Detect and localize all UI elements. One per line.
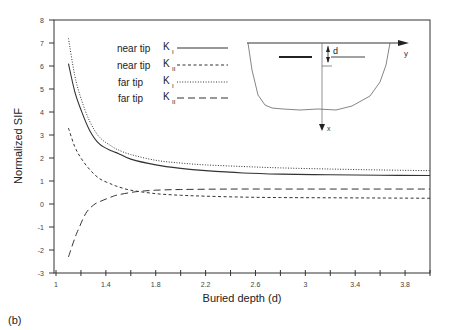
y-tick-label: 5	[40, 86, 44, 93]
y-axis-label: Normalized SIF	[12, 108, 24, 184]
inset-x-label: x	[327, 125, 331, 132]
x-tick-label: 3.4	[350, 281, 360, 288]
y-tick-label: 8	[40, 17, 44, 24]
y-tick-label: 7	[40, 40, 44, 47]
legend-label-3: far tip	[118, 93, 143, 104]
plot-axes: -3-2-101234567811.41.82.22.633.43.8	[38, 17, 430, 289]
series-line-3	[68, 189, 430, 257]
x-tick-label: 1.8	[151, 281, 161, 288]
plot-series	[68, 38, 430, 257]
y-tick-label: 4	[40, 109, 44, 116]
series-line-1	[68, 128, 430, 198]
y-tick-label: -2	[38, 247, 44, 254]
inset-y-label: y	[404, 49, 408, 58]
x-axis-label: Buried depth (d)	[203, 292, 282, 304]
chart: -3-2-101234567811.41.82.22.633.43.8 near…	[0, 0, 450, 330]
x-tick-label: 3	[303, 281, 307, 288]
x-tick-label: 2.6	[251, 281, 261, 288]
y-tick-label: 3	[40, 132, 44, 139]
plot-frame	[54, 20, 430, 273]
svg-text:II: II	[172, 99, 176, 105]
y-tick-label: -3	[38, 270, 44, 277]
x-tick-label: 2.2	[201, 281, 211, 288]
svg-text:I: I	[172, 49, 174, 55]
x-tick-label: 1	[54, 281, 58, 288]
svg-text:II: II	[172, 66, 176, 72]
legend-symbol-3: K	[163, 91, 170, 102]
y-tick-label: -1	[38, 224, 44, 231]
x-tick-label: 1.4	[101, 281, 111, 288]
x-tick-label: 3.8	[400, 281, 410, 288]
legend-label-2: far tip	[118, 77, 143, 88]
legend-label-1: near tip	[117, 60, 151, 71]
legend: near tipKInear tipKIIfar tipKIfar tipKII	[117, 41, 228, 105]
y-tick-label: 2	[40, 155, 44, 162]
series-line-2	[68, 38, 430, 170]
legend-symbol-2: K	[163, 75, 170, 86]
inset-depth-label: d	[333, 46, 338, 56]
y-tick-label: 0	[40, 201, 44, 208]
svg-text:I: I	[172, 83, 174, 89]
y-tick-label: 1	[40, 178, 44, 185]
y-tick-label: 6	[40, 63, 44, 70]
legend-symbol-1: K	[163, 58, 170, 69]
inset-diagram: dyx	[247, 40, 409, 132]
legend-label-0: near tip	[117, 43, 151, 54]
panel-label: (b)	[8, 314, 21, 326]
legend-symbol-0: K	[163, 41, 170, 52]
